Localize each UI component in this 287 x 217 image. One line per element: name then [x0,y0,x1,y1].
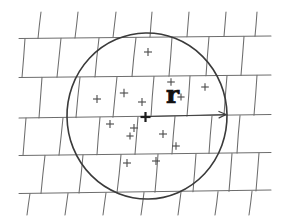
figure-canvas: r [0,0,287,217]
brick-wall-circle-figure: r [0,0,287,217]
radius-label: r [166,80,180,109]
